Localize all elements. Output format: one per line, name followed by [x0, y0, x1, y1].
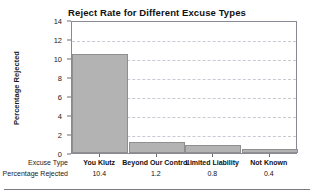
row-header-excuse-type: Excuse Type	[2, 159, 68, 166]
bar	[185, 145, 241, 153]
y-tick-label: 0	[58, 150, 62, 159]
category-value: 0.8	[207, 170, 217, 177]
category-label: Beyond Our Control	[122, 159, 189, 166]
bottom-divider	[4, 189, 310, 190]
x-tick-mark	[212, 154, 213, 157]
row-header-percentage-rejected: Percentage Rejected	[2, 170, 68, 177]
bar-series	[72, 22, 296, 153]
bar	[242, 149, 298, 153]
x-axis-data-table: Excuse Type Percentage Rejected You Klut…	[0, 159, 314, 185]
category-label: Not Known	[250, 159, 287, 166]
category-value: 1.2	[151, 170, 161, 177]
bar	[129, 142, 185, 153]
x-tick-mark	[99, 154, 100, 157]
x-tick-mark	[269, 154, 270, 157]
x-tick-mark	[156, 154, 157, 157]
y-tick-label: 8	[58, 74, 62, 83]
category-value: 10.4	[92, 170, 106, 177]
chart-figure: Reject Rate for Different Excuse Types P…	[0, 0, 314, 196]
y-tick-label: 2	[58, 131, 62, 140]
y-tick-label: 6	[58, 93, 62, 102]
y-axis: Percentage Rejected 02468101214	[0, 21, 71, 154]
y-tick-label: 4	[58, 112, 62, 121]
y-tick-label: 12	[54, 36, 62, 45]
plot-area	[71, 21, 297, 154]
chart-title: Reject Rate for Different Excuse Types	[0, 7, 314, 18]
y-axis-title: Percentage Rejected	[12, 28, 21, 148]
y-tick-label: 14	[54, 17, 62, 26]
category-label: Limited Liability	[186, 159, 239, 166]
y-tick-label: 10	[54, 55, 62, 64]
x-tick-container	[71, 154, 297, 158]
category-value: 0.4	[264, 170, 274, 177]
category-label: You Klutz	[83, 159, 115, 166]
bar	[72, 54, 128, 153]
